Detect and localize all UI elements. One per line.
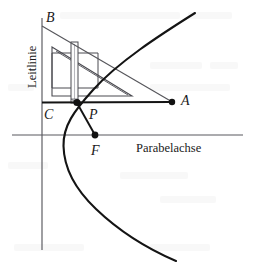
figure-canvas (0, 0, 254, 263)
point-label-b: B (46, 11, 55, 25)
point-label-p: P (89, 108, 98, 122)
parabola-figure: Leitlinie B C P F A Parabelachse (0, 0, 254, 263)
directrix-label: Leitlinie (26, 46, 39, 88)
point-marker-a (169, 99, 175, 105)
axis-label-parabelachse: Parabelachse (136, 142, 201, 155)
point-marker-p (73, 99, 80, 106)
point-label-c: C (44, 108, 53, 122)
point-marker-f (92, 132, 99, 139)
point-label-a: A (181, 94, 190, 108)
point-label-f: F (91, 144, 100, 158)
ruler-strip (71, 42, 78, 104)
ruler-line-c-to-a (42, 102, 172, 103)
